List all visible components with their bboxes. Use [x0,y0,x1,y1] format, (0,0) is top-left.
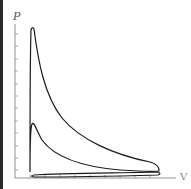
power-loop-curve [30,28,159,172]
axes [15,24,176,178]
pv-diagram [0,0,191,189]
y-ticks [15,34,18,170]
pumping-loop-curve [32,172,161,177]
volume-axis-label: V [180,172,187,182]
pressure-axis-label: P [13,11,20,22]
